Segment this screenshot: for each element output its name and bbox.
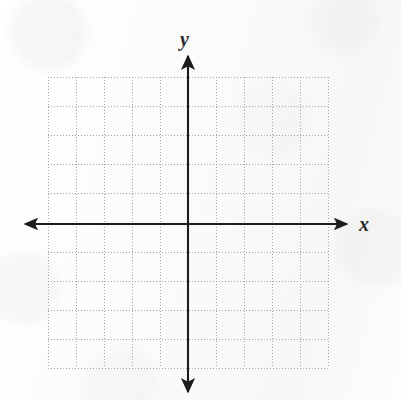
grid-lines-group <box>48 77 328 368</box>
grid-line-horizontal <box>48 77 328 78</box>
grid-line-horizontal <box>48 135 328 136</box>
grid-line-horizontal <box>48 252 328 253</box>
axes-group <box>0 0 401 400</box>
grid-line-horizontal <box>48 368 328 369</box>
grid-line-horizontal <box>48 164 328 165</box>
grid-line-vertical <box>244 77 245 368</box>
grid-line-horizontal <box>48 339 328 340</box>
grid-line-vertical <box>48 77 49 368</box>
grid-line-vertical <box>132 77 133 368</box>
grid-line-vertical <box>328 77 329 368</box>
coordinate-grid-figure: y x <box>0 0 401 400</box>
y-axis-label: y <box>180 29 189 49</box>
grid-line-vertical <box>160 77 161 368</box>
grid-line-vertical <box>216 77 217 368</box>
grid-line-vertical <box>300 77 301 368</box>
x-axis-label: x <box>359 214 369 234</box>
grid-line-vertical <box>104 77 105 368</box>
paper-texture <box>0 0 401 400</box>
grid-line-horizontal <box>48 106 328 107</box>
grid-line-horizontal <box>48 193 328 194</box>
grid-line-horizontal <box>48 281 328 282</box>
grid-line-vertical <box>272 77 273 368</box>
grid-line-vertical <box>76 77 77 368</box>
grid-line-vertical <box>188 77 189 368</box>
grid-line-horizontal <box>48 223 328 224</box>
grid-line-horizontal <box>48 310 328 311</box>
